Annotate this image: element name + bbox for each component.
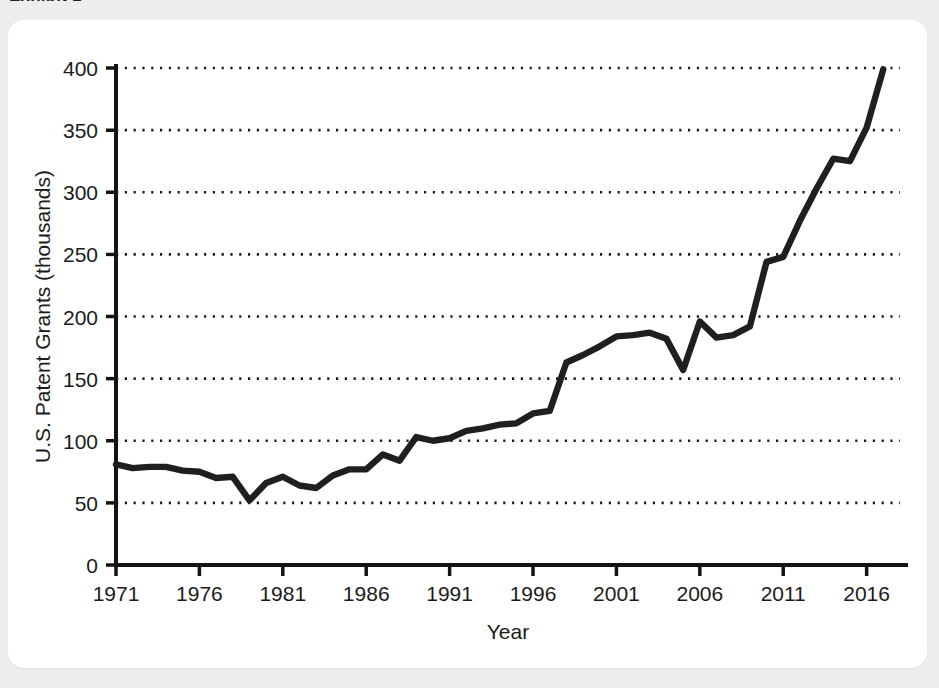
data-series-line bbox=[116, 69, 883, 500]
x-tick-label: 2011 bbox=[761, 582, 806, 605]
y-tick-label: 300 bbox=[63, 181, 98, 204]
x-tick-label: 2006 bbox=[676, 582, 723, 605]
y-tick-label: 50 bbox=[75, 492, 98, 515]
page-title: Exhibit 1 bbox=[9, 0, 82, 6]
x-tick-label: 1991 bbox=[426, 582, 473, 605]
x-tick-labels-group: 1971197619811986199119962001200620112016 bbox=[93, 582, 890, 605]
page-root: Exhibit 1 050100150200250300350400 19711… bbox=[0, 0, 939, 688]
x-tick-label: 1981 bbox=[259, 582, 306, 605]
y-axis-title: U.S. Patent Grants (thousands) bbox=[31, 170, 54, 463]
y-tick-label: 200 bbox=[63, 306, 98, 329]
chart-plot-area: 050100150200250300350400 197119761981198… bbox=[8, 20, 927, 668]
y-tick-label: 150 bbox=[63, 368, 98, 391]
x-tick-label: 1986 bbox=[343, 582, 390, 605]
x-tick-label: 2016 bbox=[843, 582, 890, 605]
x-tick-label: 1996 bbox=[510, 582, 557, 605]
y-tick-label: 100 bbox=[63, 430, 98, 453]
y-tick-label: 0 bbox=[86, 554, 98, 577]
x-axis-title: Year bbox=[487, 620, 529, 643]
gridlines-group bbox=[116, 68, 900, 503]
chart-card: 050100150200250300350400 197119761981198… bbox=[8, 20, 927, 668]
line-chart: 050100150200250300350400 197119761981198… bbox=[8, 20, 927, 668]
y-tick-label: 250 bbox=[63, 243, 98, 266]
x-tick-label: 2001 bbox=[593, 582, 640, 605]
y-tick-labels-group: 050100150200250300350400 bbox=[63, 57, 98, 577]
x-tick-label: 1971 bbox=[93, 582, 140, 605]
y-tick-label: 350 bbox=[63, 119, 98, 142]
x-tick-label: 1976 bbox=[176, 582, 223, 605]
y-tick-label: 400 bbox=[63, 57, 98, 80]
